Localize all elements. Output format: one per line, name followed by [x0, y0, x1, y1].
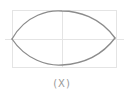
figure-caption: (X) — [0, 78, 124, 89]
lens-upper-arc — [12, 11, 115, 39]
guide-lines — [5, 10, 124, 68]
lens-lower-arc — [12, 38, 115, 65]
